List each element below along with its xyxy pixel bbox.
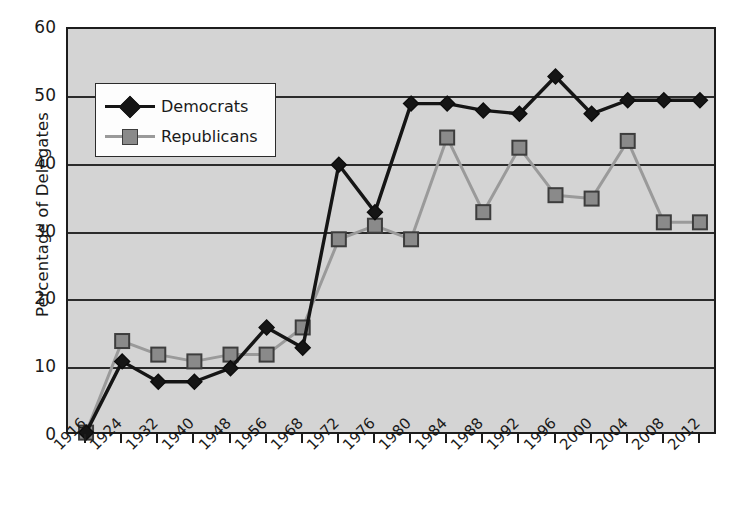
x-tick-mark [626, 434, 628, 443]
data-point-marker [295, 340, 310, 355]
republicans-symbol [105, 127, 155, 145]
data-point-marker [151, 348, 165, 362]
legend-item-democrats: Democrats [105, 91, 266, 121]
x-tick-mark [373, 434, 375, 443]
data-point-marker [621, 134, 635, 148]
x-tick-mark [301, 434, 303, 443]
x-tick-mark [590, 434, 592, 443]
democrats-symbol [105, 97, 155, 115]
y-tick-label: 50 [16, 86, 56, 103]
x-tick-mark [517, 434, 519, 443]
y-tick-label: 10 [16, 358, 56, 375]
x-tick-mark [337, 434, 339, 443]
y-tick-label: 30 [16, 222, 56, 239]
x-tick-mark [698, 434, 700, 443]
data-point-marker [187, 374, 202, 389]
data-point-marker [404, 232, 418, 246]
data-point-marker [332, 232, 346, 246]
chart-legend: Democrats Republicans [95, 83, 276, 157]
data-point-marker [440, 96, 455, 111]
x-tick-mark [662, 434, 664, 443]
series-line-republicans [86, 138, 700, 433]
data-point-marker [657, 215, 671, 229]
data-point-marker [549, 188, 563, 202]
data-point-marker [440, 131, 454, 145]
data-point-marker [693, 215, 707, 229]
data-point-marker [115, 334, 129, 348]
data-point-marker [692, 93, 707, 108]
x-tick-mark [229, 434, 231, 443]
chart-root: Percentage of Delegates 0102030405060 19… [0, 0, 736, 505]
y-tick-label: 40 [16, 154, 56, 171]
data-point-marker [151, 374, 166, 389]
data-point-marker [368, 219, 382, 233]
data-point-marker [187, 354, 201, 368]
y-tick-label: 20 [16, 290, 56, 307]
x-tick-mark [192, 434, 194, 443]
data-point-marker [620, 93, 635, 108]
square-marker-icon [122, 129, 138, 145]
legend-label-republicans: Republicans [155, 127, 258, 146]
data-point-marker [476, 103, 491, 118]
data-point-marker [260, 348, 274, 362]
diamond-marker-icon [119, 96, 142, 119]
data-point-marker [656, 93, 671, 108]
data-point-marker [512, 141, 526, 155]
data-point-marker [585, 192, 599, 206]
x-tick-mark [265, 434, 267, 443]
data-point-marker [476, 205, 490, 219]
y-tick-label: 60 [16, 19, 56, 36]
data-point-marker [404, 96, 419, 111]
data-point-marker [224, 348, 238, 362]
x-tick-mark [554, 434, 556, 443]
legend-label-democrats: Democrats [155, 97, 248, 116]
y-axis-tick-labels: 0102030405060 [12, 0, 56, 505]
legend-item-republicans: Republicans [105, 121, 266, 151]
